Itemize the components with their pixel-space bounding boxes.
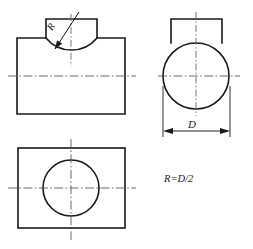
side-view: D bbox=[158, 12, 240, 137]
diameter-label: D bbox=[187, 118, 196, 130]
orthographic-projection-drawing: R D bbox=[0, 0, 253, 249]
front-view-saddle-arc bbox=[46, 38, 97, 50]
top-view bbox=[8, 139, 136, 240]
technical-drawing-canvas: R D bbox=[0, 0, 253, 249]
dimension-arrow-left bbox=[163, 128, 173, 134]
radius-leader-line bbox=[55, 12, 79, 49]
dimension-arrow-right bbox=[220, 128, 230, 134]
side-view-boss-outline bbox=[171, 19, 222, 43]
relation-note: R=D/2 bbox=[163, 173, 194, 184]
front-view: R bbox=[8, 12, 136, 114]
